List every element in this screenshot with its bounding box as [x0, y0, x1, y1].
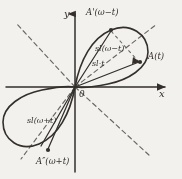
label-sl-omega-minus-t: sl(ω−t) [95, 45, 124, 53]
diagonal-up-left-line [16, 23, 75, 87]
diagonal-up-right-line [75, 24, 157, 87]
label-sl-omega-plus-t: sl(ω+t) [27, 117, 56, 125]
y-axis-label: y [64, 9, 70, 19]
figure-canvas: A'(ω−t) A(t) A″(ω+t) sl(ω−t) sl·t sl(ω+t… [0, 0, 182, 179]
point-dot-A [138, 60, 142, 64]
label-sl-t: sl·t [92, 60, 104, 68]
label-point-A-double: A″(ω+t) [36, 157, 69, 166]
x-axis-label: x [159, 89, 165, 99]
polar-curve-svg [0, 0, 182, 179]
vector-to-A [75, 62, 139, 87]
petal-upper-right [75, 27, 148, 87]
point-dot-A-prime [109, 28, 113, 32]
diagonal-down-right-line [75, 87, 150, 156]
point-dot-A-double [46, 148, 50, 152]
origin-label: 0 [79, 90, 85, 99]
label-point-A-prime: A'(ω−t) [86, 8, 119, 17]
label-point-A: A(t) [148, 52, 164, 61]
